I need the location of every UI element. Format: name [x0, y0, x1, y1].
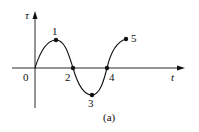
waveform-curve: [35, 39, 126, 95]
point-1: [54, 38, 58, 42]
y-axis-label: τ: [25, 9, 30, 21]
point-label-4: 4: [109, 71, 115, 83]
y-axis-arrow-icon: [33, 11, 38, 19]
point-4: [105, 66, 109, 70]
x-axis-arrow-icon: [177, 66, 185, 71]
x-axis-label: t: [171, 71, 175, 83]
point-label-2: 2: [65, 71, 71, 83]
point-2: [71, 66, 75, 70]
origin-label: 0: [23, 71, 29, 83]
waveform-diagram: τ t 0 1 2 3 4 5 (a): [0, 0, 199, 132]
figure-caption: (a): [103, 111, 116, 124]
point-label-3: 3: [88, 97, 94, 109]
point-5: [124, 37, 128, 41]
point-label-1: 1: [52, 25, 58, 37]
point-label-5: 5: [131, 32, 137, 44]
